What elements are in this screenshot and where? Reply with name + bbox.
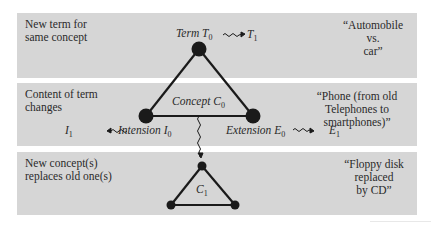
term-node [192, 42, 207, 57]
new-concept-right-node [231, 201, 240, 210]
extension-change-arrow-icon [293, 129, 312, 132]
divider [370, 221, 431, 222]
extension-label: Extension E0 [226, 124, 285, 139]
intension-label: Intension I0 [118, 124, 172, 139]
intension-node [139, 109, 154, 124]
extension-next-label: E1 [329, 124, 340, 139]
extension-node [246, 109, 261, 124]
intension-next-label: I1 [65, 124, 73, 139]
new-concept-left-node [167, 201, 176, 210]
new-concept-top-node [198, 162, 207, 171]
concept-replacement-arrow-icon [198, 116, 201, 157]
term-next-label: T1 [247, 28, 257, 43]
semiotic-triangle-diagram [0, 0, 431, 225]
term-label: Term T0 [176, 27, 213, 42]
term-change-arrow-icon [223, 34, 243, 37]
concept-label: Concept C0 [172, 95, 225, 110]
new-concept-label: C1 [196, 183, 208, 198]
